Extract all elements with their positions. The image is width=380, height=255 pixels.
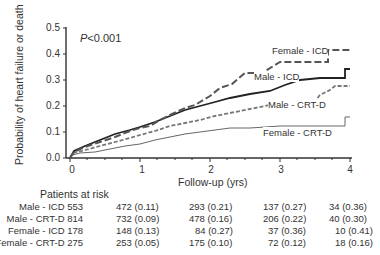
risk-row: Male - ICD 553 472 (0.11) 293 (0.21) 137… <box>0 201 380 213</box>
svg-text:1: 1 <box>139 164 145 175</box>
risk-cell: 37 (0.36) <box>268 225 306 236</box>
risk-cell: 478 (0.16) <box>189 213 232 224</box>
risk-row-label: Female - CRT-D 275 <box>0 237 83 248</box>
chart-svg: 0.0 0.1 0.2 0.3 0.4 0.5 0 1 2 3 4 <box>0 0 380 185</box>
risk-cell: 293 (0.21) <box>189 201 232 212</box>
label-female-crtd: Female - CRT-D <box>263 127 332 138</box>
svg-text:3: 3 <box>278 164 284 175</box>
label-female-icd: Female - ICD <box>272 45 328 56</box>
svg-text:0.4: 0.4 <box>46 48 60 59</box>
svg-text:4: 4 <box>347 164 353 175</box>
risk-row-label: Male - ICD 553 <box>19 201 83 212</box>
risk-cell: 175 (0.10) <box>189 237 232 248</box>
y-tick-labels: 0.0 0.1 0.2 0.3 0.4 0.5 <box>46 22 60 163</box>
risk-cell: 253 (0.05) <box>116 237 159 248</box>
risk-row-label: Male - CRT-D 814 <box>7 213 83 224</box>
risk-row: Female - CRT-D 275 253 (0.05) 175 (0.10)… <box>0 237 380 249</box>
risk-cell: 84 (0.27) <box>195 225 233 236</box>
risk-cell: 18 (0.16) <box>335 237 373 248</box>
svg-text:2: 2 <box>208 164 214 175</box>
curve-male-icd <box>70 69 350 158</box>
svg-text:0.3: 0.3 <box>46 74 60 85</box>
risk-cell: 206 (0.22) <box>263 213 306 224</box>
risk-cell: 40 (0.30) <box>329 213 367 224</box>
svg-text:0.1: 0.1 <box>46 126 60 137</box>
risk-table-title: Patients at risk <box>40 188 109 200</box>
svg-text:0: 0 <box>69 164 75 175</box>
risk-cell: 10 (0.41) <box>335 225 373 236</box>
risk-cell: 137 (0.27) <box>263 201 306 212</box>
risk-cell: 34 (0.36) <box>329 201 367 212</box>
x-tick-labels: 0 1 2 3 4 <box>69 164 353 175</box>
svg-text:0.2: 0.2 <box>46 100 60 111</box>
risk-cell: 72 (0.12) <box>268 237 306 248</box>
p-value: <0.001 <box>87 32 121 44</box>
risk-cell: 472 (0.11) <box>116 201 159 212</box>
label-male-icd: Male - ICD <box>254 71 299 82</box>
risk-cell: 148 (0.13) <box>116 225 159 236</box>
label-male-crtd: Male - CRT-D <box>268 99 326 110</box>
risk-row: Female - ICD 178 148 (0.13) 84 (0.27) 37… <box>0 225 380 237</box>
risk-cell: 732 (0.09) <box>116 213 159 224</box>
x-axis-label: Follow-up (yrs) <box>178 176 247 188</box>
svg-text:0.5: 0.5 <box>46 22 60 33</box>
km-chart: 0.0 0.1 0.2 0.3 0.4 0.5 0 1 2 3 4 Probab… <box>0 0 380 185</box>
svg-text:0.0: 0.0 <box>46 152 60 163</box>
risk-row: Male - CRT-D 814 732 (0.09) 478 (0.16) 2… <box>0 213 380 225</box>
risk-row-label: Female - ICD 178 <box>8 225 83 236</box>
p-value-annotation: P<0.001 <box>80 32 121 44</box>
y-axis-label: Probability of heart failure or death <box>13 15 25 165</box>
